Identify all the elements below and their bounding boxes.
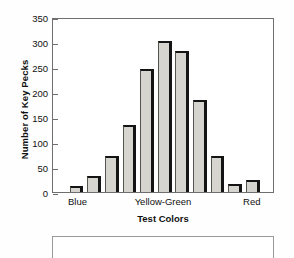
y-tick-label: 0 [43,189,48,199]
bar [246,180,260,193]
y-tick-label: 100 [32,139,48,149]
y-tick-label: 350 [32,14,48,24]
x-tick-label: Yellow-Green [135,196,192,207]
x-axis-title: Test Colors [52,213,274,224]
y-tick-label: 150 [32,114,48,124]
bar [87,176,101,192]
y-tick-label: 300 [32,39,48,49]
x-tick-label: Red [243,196,260,207]
y-tick-label: 200 [32,89,48,99]
bar [105,156,119,193]
bar [228,184,242,192]
bar [70,186,84,192]
bar [123,125,137,193]
x-tick-label: Blue [68,196,87,207]
y-tick-label: 250 [32,64,48,74]
y-axis-title: Number of Key Pecks [19,30,30,190]
bar [158,41,172,193]
bar-series [53,19,273,192]
y-tick-mark [53,194,58,195]
chart-figure: Number of Key Pecks 05010015020025030035… [0,0,294,258]
bar [211,156,225,192]
caption-rule [52,236,274,258]
bar [175,51,189,193]
bar [140,69,154,193]
bar [193,100,207,193]
y-tick-label: 50 [37,164,48,174]
plot-area: 050100150200250300350 [52,18,274,193]
